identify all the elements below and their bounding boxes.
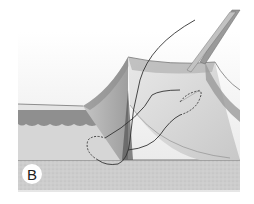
- panel-label-badge: B: [22, 164, 42, 184]
- deep-tissue-layer: [18, 160, 240, 190]
- panel-label: B: [27, 166, 37, 183]
